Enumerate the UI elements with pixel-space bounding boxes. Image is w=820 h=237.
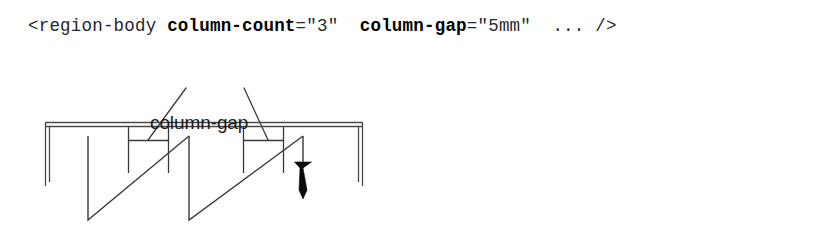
- text-flow-path: [88, 136, 303, 220]
- code-attr-column-gap-name: column-gap: [360, 16, 467, 36]
- code-snippet: <region-body column-count="3" column-gap…: [28, 14, 617, 38]
- column-gap-label: column-gap: [150, 112, 248, 134]
- text-flow-column-1: [88, 136, 189, 220]
- arrow-head-icon: [295, 162, 312, 199]
- column-gap-diagram: column-gap: [0, 52, 420, 237]
- code-tag-close: />: [595, 16, 616, 36]
- code-tag-open: <region-body: [28, 16, 156, 36]
- flow-end-arrow: [295, 162, 312, 199]
- column-gap-notch-2: [244, 127, 284, 141]
- code-attr-column-count-name: column-count: [167, 16, 295, 36]
- text-flow-column-2: [189, 136, 303, 220]
- code-attr-column-gap-equals: =: [467, 16, 478, 36]
- code-attr-column-count-value: "3": [306, 16, 338, 36]
- code-ellipsis: ...: [552, 16, 584, 36]
- code-attr-column-gap-value: "5mm": [478, 16, 532, 36]
- code-attr-column-count-equals: =: [296, 16, 307, 36]
- diagram-canvas: [0, 52, 420, 237]
